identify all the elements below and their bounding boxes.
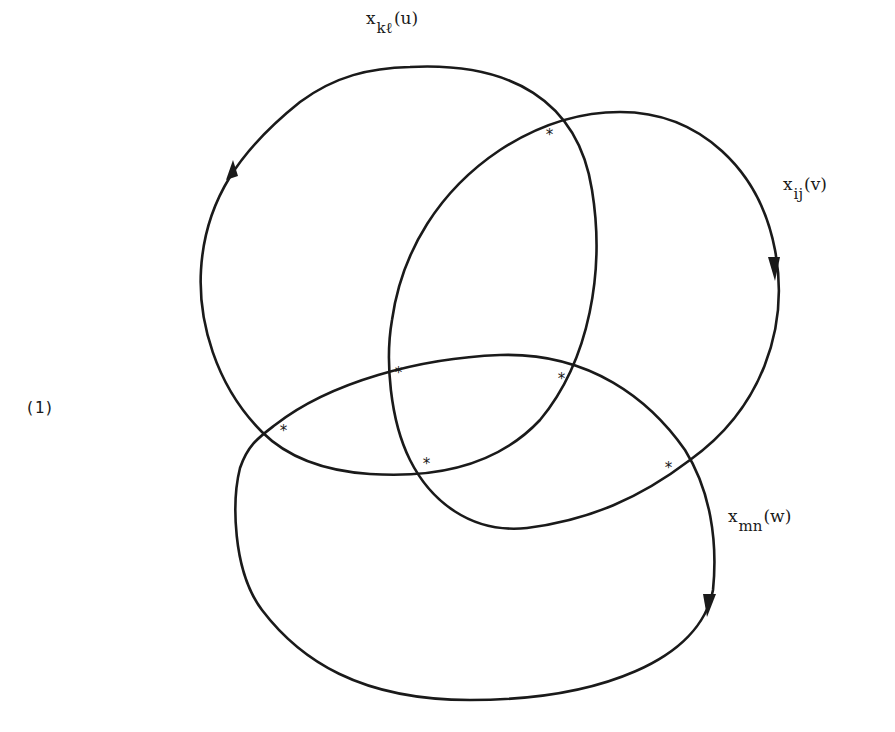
label-subscript: kℓ	[377, 19, 393, 37]
label-curve-v: xij(v)	[783, 176, 827, 193]
label-argument: (w)	[763, 506, 791, 526]
label-base: x	[783, 174, 793, 194]
crossing-marker: *	[279, 424, 288, 439]
label-subscript: ij	[794, 185, 803, 203]
curve-v	[389, 112, 779, 529]
label-argument: (v)	[804, 174, 827, 194]
crossing-marker: *	[422, 457, 431, 472]
label-argument: (u)	[394, 8, 418, 28]
knot-diagram	[0, 0, 895, 732]
equation-number: (1)	[25, 398, 54, 417]
curve-u	[201, 67, 597, 475]
label-base: x	[728, 506, 738, 526]
crossing-marker: *	[664, 461, 673, 476]
label-curve-w: xmn(w)	[728, 508, 791, 525]
crossing-marker: *	[545, 128, 554, 143]
label-base: x	[366, 8, 376, 28]
label-curve-u: xkℓ(u)	[366, 10, 418, 27]
crossing-marker: *	[394, 366, 403, 381]
arrow-up-icon	[226, 160, 238, 180]
curve-w	[235, 355, 714, 700]
crossing-marker: *	[557, 372, 566, 387]
label-subscript: mn	[739, 517, 763, 535]
